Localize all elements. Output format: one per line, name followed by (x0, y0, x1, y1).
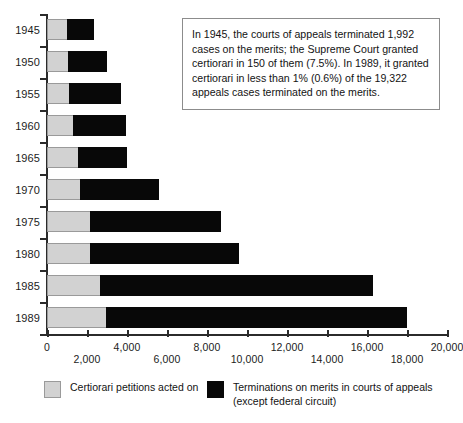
category-label-1965: 1965 (0, 142, 40, 174)
legend-item-terminations: Terminations on merits in courts of appe… (207, 380, 433, 408)
x-axis-label-10000: 10,000 (231, 353, 264, 365)
bar-segment-terminations (80, 179, 159, 200)
x-axis-tick (87, 330, 89, 337)
category-tick (40, 334, 47, 336)
chart-legend: Certiorari petitions acted on Terminatio… (0, 376, 459, 423)
stacked-bar (47, 243, 239, 264)
bar-row: 1980 (0, 238, 459, 270)
category-tick (40, 206, 47, 208)
category-tick (40, 78, 47, 80)
legend-label-terminations: Terminations on merits in courts of appe… (233, 380, 433, 408)
x-axis-tick (47, 330, 49, 337)
category-label-1975: 1975 (0, 206, 40, 238)
category-label-1950: 1950 (0, 46, 40, 78)
category-tick (40, 238, 47, 240)
category-tick (40, 110, 47, 112)
bar-segment-certiorari (47, 51, 69, 72)
x-axis-tick (407, 330, 409, 337)
annotation-textbox: In 1945, the courts of appeals terminate… (182, 18, 440, 110)
x-axis-label-20000: 20,000 (431, 341, 463, 353)
category-label-1985: 1985 (0, 270, 40, 302)
bar-segment-terminations (73, 115, 126, 136)
x-axis-label-2000: 2,000 (74, 353, 101, 365)
bar-segment-terminations (106, 307, 407, 328)
bar-segment-terminations (90, 211, 221, 232)
bar-segment-certiorari (47, 179, 81, 200)
x-axis-label-14000: 14,000 (311, 353, 344, 365)
bar-segment-terminations (69, 83, 121, 104)
x-axis-label-4000: 4,000 (114, 341, 141, 353)
bar-segment-certiorari (47, 19, 68, 40)
bar-segment-certiorari (47, 275, 101, 296)
category-tick (40, 302, 47, 304)
x-axis-tick (447, 330, 449, 337)
bar-row: 1960 (0, 110, 459, 142)
x-axis-label-8000: 8,000 (194, 341, 221, 353)
legend-swatch-black (207, 381, 224, 398)
x-axis-label-16000: 16,000 (351, 341, 384, 353)
legend-item-certiorari: Certiorari petitions acted on (44, 380, 198, 398)
category-label-1960: 1960 (0, 110, 40, 142)
x-axis-tick (167, 330, 169, 337)
bar-row: 1965 (0, 142, 459, 174)
stacked-bar (47, 147, 127, 168)
legend-label-certiorari: Certiorari petitions acted on (70, 380, 198, 394)
stacked-bar (47, 275, 373, 296)
bar-row: 1975 (0, 206, 459, 238)
x-axis-tick (247, 330, 249, 337)
stacked-bar (47, 307, 407, 328)
x-axis-label-6000: 6,000 (154, 353, 181, 365)
category-label-1945: 1945 (0, 14, 40, 46)
bar-segment-certiorari (47, 243, 91, 264)
stacked-bar (47, 211, 221, 232)
x-axis-tick (327, 330, 329, 337)
bar-segment-certiorari (47, 115, 74, 136)
stacked-bar (47, 179, 159, 200)
bar-segment-certiorari (47, 307, 107, 328)
x-axis-label-12000: 12,000 (271, 341, 304, 353)
x-axis-label-18000: 18,000 (391, 353, 424, 365)
x-axis-label-0: 0 (44, 341, 50, 353)
bar-row: 1985 (0, 270, 459, 302)
category-tick (40, 270, 47, 272)
x-axis-tick (367, 330, 369, 337)
bar-segment-terminations (68, 51, 107, 72)
category-label-1970: 1970 (0, 174, 40, 206)
category-label-1989: 1989 (0, 302, 40, 334)
bar-row: 1989 (0, 302, 459, 334)
bar-segment-terminations (67, 19, 94, 40)
category-label-1980: 1980 (0, 238, 40, 270)
category-tick (40, 142, 47, 144)
bar-segment-terminations (78, 147, 127, 168)
category-tick (40, 46, 47, 48)
stacked-bar (47, 19, 94, 40)
category-label-1955: 1955 (0, 78, 40, 110)
bar-segment-certiorari (47, 147, 79, 168)
category-tick (40, 14, 47, 16)
stacked-bar (47, 83, 121, 104)
x-axis-tick (287, 330, 289, 337)
bar-segment-certiorari (47, 211, 91, 232)
category-tick (40, 174, 47, 176)
bar-segment-terminations (90, 243, 239, 264)
stacked-bar (47, 51, 107, 72)
x-axis-tick (207, 330, 209, 337)
bar-segment-certiorari (47, 83, 70, 104)
stacked-bar (47, 115, 126, 136)
bar-segment-terminations (100, 275, 373, 296)
x-axis-tick (127, 330, 129, 337)
bar-row: 1970 (0, 174, 459, 206)
legend-swatch-gray (44, 381, 61, 398)
